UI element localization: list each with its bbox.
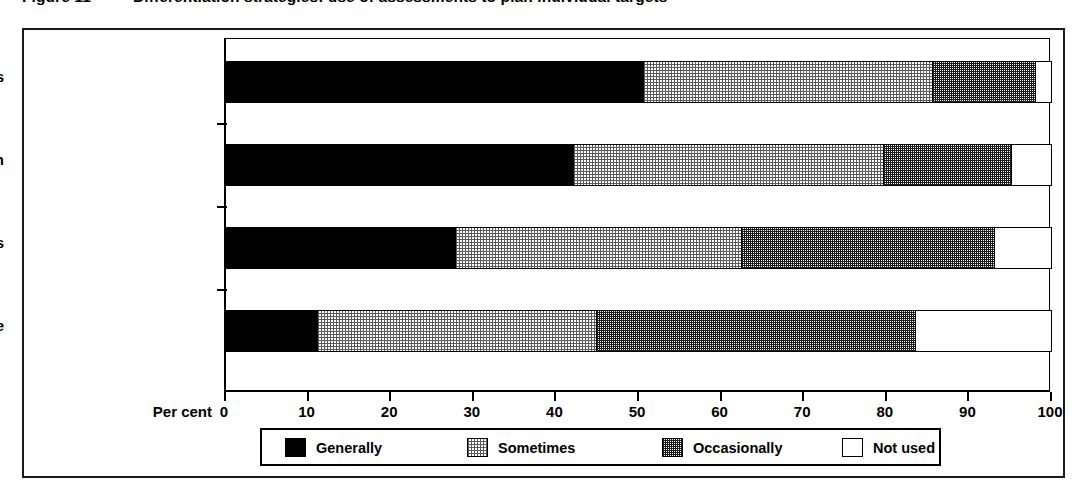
bar-segment-notused	[994, 227, 1052, 269]
x-axis-tick-label: 70	[772, 403, 832, 420]
x-axis-tick	[967, 392, 969, 401]
y-axis-label-sec-english: Sec. English	[0, 152, 4, 167]
x-axis-tick	[720, 392, 722, 401]
bar-group-primary-schools: Primary Schools	[226, 41, 1049, 123]
x-axis-tick	[885, 392, 887, 401]
chart-legend: Generally Sometimes Occasionally Not use…	[260, 428, 941, 466]
bar-segment-occasionally	[932, 61, 1035, 103]
bar-segment-notused	[1011, 144, 1052, 186]
figure-caption-text: Differentiation strategies: use of asses…	[133, 0, 667, 5]
x-axis-tick-label: 90	[937, 403, 997, 420]
bar-segment-sometimes	[643, 61, 932, 103]
bar-segment-occasionally	[596, 310, 915, 352]
x-axis-tick-label: 60	[690, 403, 750, 420]
x-axis-tick-label: 50	[607, 403, 667, 420]
x-axis-tick-label: 80	[855, 403, 915, 420]
x-axis-tick	[1050, 392, 1052, 401]
x-axis-tick-label: 10	[277, 403, 337, 420]
legend-item-notused: Not used	[842, 438, 935, 457]
legend-item-sometimes: Sometimes	[467, 438, 575, 457]
y-axis-tick	[217, 123, 227, 125]
bar-segment-occasionally	[883, 144, 1011, 186]
bar-segment-occasionally	[741, 227, 995, 269]
stacked-bar-sec-maths	[226, 227, 1052, 269]
x-axis-tick	[637, 392, 639, 401]
x-axis-tick	[802, 392, 804, 401]
x-axis-tick-label: 100	[1020, 403, 1080, 420]
x-axis-tick	[472, 392, 474, 401]
figure-caption-label: Figure 11	[22, 0, 91, 5]
x-axis-tick	[389, 392, 391, 401]
chart-plot-area: Primary Schools Sec. English Sec. Maths	[224, 38, 1050, 392]
x-axis-tick-label: 30	[442, 403, 502, 420]
y-axis-label-primary-schools: Primary Schools	[0, 69, 4, 84]
stacked-bar-primary-schools	[226, 61, 1052, 103]
x-axis-tick-label: 40	[524, 403, 584, 420]
x-axis-tick-label: 20	[359, 403, 419, 420]
bar-segment-generally	[226, 227, 455, 269]
bar-segment-notused	[1035, 61, 1052, 103]
x-axis-tick	[307, 392, 309, 401]
bar-group-sec-science: Sec. Science	[226, 290, 1049, 372]
bar-segment-generally	[226, 144, 573, 186]
bar-segment-sometimes	[573, 144, 883, 186]
bar-segment-sometimes	[317, 310, 596, 352]
y-axis-tick	[217, 206, 227, 208]
legend-label-generally: Generally	[316, 440, 382, 456]
x-axis-tick	[554, 392, 556, 401]
legend-swatch-generally-icon	[285, 438, 306, 457]
legend-item-occasionally: Occasionally	[662, 438, 782, 457]
bar-segment-sometimes	[455, 227, 741, 269]
stacked-bar-sec-science	[226, 310, 1052, 352]
legend-label-occasionally: Occasionally	[693, 440, 782, 456]
y-axis-tick	[217, 289, 227, 291]
legend-swatch-occasionally-icon	[662, 438, 683, 457]
legend-swatch-sometimes-icon	[467, 438, 488, 457]
x-axis-tick-label: 0	[194, 403, 254, 420]
x-axis-ticks: 0102030405060708090100	[224, 392, 1050, 426]
bar-segment-generally	[226, 61, 643, 103]
bar-group-sec-maths: Sec. Maths	[226, 207, 1049, 289]
bar-group-sec-english: Sec. English	[226, 124, 1049, 206]
figure-caption: Figure 11Differentiation strategies: use…	[22, 0, 1062, 8]
bar-segment-generally	[226, 310, 317, 352]
stacked-bar-sec-english	[226, 144, 1052, 186]
legend-label-notused: Not used	[873, 440, 935, 456]
y-axis-label-sec-maths: Sec. Maths	[0, 235, 4, 250]
x-axis-tick	[224, 392, 226, 401]
bar-segment-notused	[915, 310, 1052, 352]
legend-item-generally: Generally	[285, 438, 382, 457]
y-axis-label-sec-science: Sec. Science	[0, 318, 4, 333]
legend-swatch-notused-icon	[842, 438, 863, 457]
legend-label-sometimes: Sometimes	[498, 440, 575, 456]
